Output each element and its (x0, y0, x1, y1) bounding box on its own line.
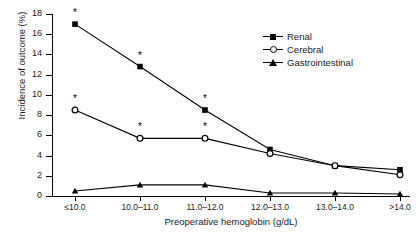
significance-asterisk: * (203, 122, 207, 132)
data-point-cerebral-0 (72, 107, 78, 113)
significance-asterisk: * (138, 51, 142, 61)
x-tick-label: 12.0–13.0 (251, 202, 289, 212)
y-tick-label: 8 (20, 110, 42, 119)
x-tick-label: 11.0–12.0 (186, 202, 223, 212)
legend-label: Cerebral (287, 43, 323, 56)
data-point-gastrointestinal-4 (332, 190, 338, 196)
y-tick-mark (46, 14, 52, 15)
data-point-gastrointestinal-0 (72, 188, 78, 194)
y-axis-title: Incidence of outcome (%) (16, 7, 27, 125)
significance-asterisk: * (73, 94, 77, 104)
legend-label: Gastrointestinal (287, 56, 353, 69)
data-point-renal-2 (202, 107, 208, 113)
x-tick-label: 10.0–11.0 (121, 202, 158, 212)
data-point-cerebral-5 (397, 172, 403, 178)
significance-asterisk: * (73, 8, 77, 18)
y-tick-label: 6 (20, 130, 42, 139)
data-point-cerebral-1 (137, 135, 143, 141)
y-tick-label: 2 (20, 171, 42, 180)
chart-figure: Incidence of outcome (%) Preoperative he… (0, 0, 419, 237)
significance-asterisk: * (138, 122, 142, 132)
y-tick-mark (46, 196, 52, 197)
series-line-cerebral (75, 110, 400, 175)
y-tick-mark (46, 34, 52, 35)
legend-item-gastrointestinal[interactable]: Gastrointestinal (263, 56, 353, 69)
y-tick-label: 14 (20, 49, 42, 58)
legend-marker-open-circle-icon (263, 44, 283, 56)
data-point-renal-1 (137, 64, 143, 70)
chart-legend: RenalCerebralGastrointestinal (263, 30, 353, 69)
x-tick-label: >14.0 (389, 202, 411, 212)
data-point-renal-3 (267, 147, 273, 153)
y-tick-label: 4 (20, 151, 42, 160)
y-tick-label: 10 (20, 90, 42, 99)
data-point-gastrointestinal-1 (137, 182, 143, 188)
y-tick-label: 12 (20, 70, 42, 79)
x-tick-label: 13.0–14.0 (316, 202, 354, 212)
y-axis-line (52, 14, 53, 197)
series-line-gastrointestinal (75, 185, 400, 194)
legend-item-renal[interactable]: Renal (263, 30, 353, 43)
x-tick-label: ≤10.0 (64, 202, 85, 212)
data-point-gastrointestinal-2 (202, 182, 208, 188)
legend-item-cerebral[interactable]: Cerebral (263, 43, 353, 56)
data-point-cerebral-3 (267, 151, 273, 157)
x-tick-mark (140, 196, 141, 201)
legend-label: Renal (287, 30, 312, 43)
data-point-cerebral-2 (202, 135, 208, 141)
x-axis-title: Preoperative hemoglobin (g/dL) (52, 216, 410, 227)
x-tick-mark (270, 196, 271, 201)
data-point-renal-0 (72, 21, 78, 27)
x-tick-mark (75, 196, 76, 201)
y-tick-label: 0 (20, 191, 42, 200)
legend-marker-filled-triangle-icon (263, 57, 283, 69)
x-tick-mark (335, 196, 336, 201)
data-point-renal-4 (332, 163, 338, 169)
significance-asterisk: * (203, 94, 207, 104)
data-point-renal-5 (397, 167, 403, 173)
y-tick-mark (46, 115, 52, 116)
data-point-gastrointestinal-3 (267, 190, 273, 196)
y-tick-label: 16 (20, 29, 42, 38)
y-tick-mark (46, 54, 52, 55)
legend-marker-filled-square-icon (263, 31, 283, 43)
y-tick-mark (46, 95, 52, 96)
y-tick-mark (46, 135, 52, 136)
data-point-cerebral-4 (332, 163, 338, 169)
x-tick-mark (400, 196, 401, 201)
y-tick-mark (46, 75, 52, 76)
x-tick-mark (205, 196, 206, 201)
x-axis-line (52, 196, 410, 197)
y-tick-mark (46, 176, 52, 177)
y-tick-label: 18 (20, 9, 42, 18)
y-tick-mark (46, 156, 52, 157)
